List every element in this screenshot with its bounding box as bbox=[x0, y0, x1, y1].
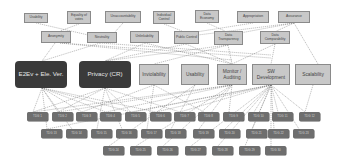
task-node-tdg-12: TDG 12 bbox=[299, 112, 320, 121]
task-node-tdg-18: TDG 18 bbox=[165, 129, 186, 138]
task-node-tdg-29: TDG 29 bbox=[239, 146, 260, 155]
node-label: TDG 7 bbox=[180, 115, 189, 118]
node-label: TDG 6 bbox=[156, 115, 165, 118]
requirement-node-appropriation: Appropriation bbox=[237, 11, 269, 23]
node-label: TDG 15 bbox=[96, 132, 107, 135]
task-node-tdg-9: TDG 9 bbox=[223, 112, 244, 121]
task-node-tdg-30: TDG 30 bbox=[265, 146, 286, 155]
task-node-tdg-4: TDG 4 bbox=[100, 112, 121, 121]
node-label: TDG 4 bbox=[106, 115, 115, 118]
node-label: TDG 26 bbox=[162, 149, 173, 152]
requirement-node-assurance: Assurance bbox=[278, 11, 310, 23]
node-label: Monitor / Auditing bbox=[218, 69, 246, 79]
task-node-tdg-20: TDG 20 bbox=[219, 129, 240, 138]
task-node-tdg-26: TDG 26 bbox=[157, 146, 178, 155]
node-label: TDG 9 bbox=[229, 115, 238, 118]
node-label: Unaccountability bbox=[111, 15, 136, 19]
requirement-node-usability: Usability bbox=[181, 64, 209, 85]
node-label: TDG 24 bbox=[108, 149, 119, 152]
node-label: TDG 12 bbox=[304, 115, 315, 118]
task-node-tdg-22: TDG 22 bbox=[268, 129, 289, 138]
task-node-tdg-25: TDG 25 bbox=[130, 146, 151, 155]
node-label: TDG 14 bbox=[71, 132, 82, 135]
node-label: Unlinkability bbox=[135, 35, 153, 39]
requirement-node-data-comparability: Data Comparability bbox=[260, 31, 290, 44]
task-node-tdg-23: TDG 23 bbox=[293, 129, 314, 138]
task-node-tdg-11: TDG 11 bbox=[272, 112, 293, 121]
requirement-node-inviolability: Inviolability bbox=[139, 64, 169, 85]
node-label: TDG 25 bbox=[135, 149, 146, 152]
node-label: TDG 13 bbox=[46, 132, 57, 135]
goal-node-e2ev-ele-ver: E2Ev + Ele. Ver. bbox=[15, 61, 67, 88]
task-node-tdg-16: TDG 16 bbox=[116, 129, 137, 138]
task-node-tdg-28: TDG 28 bbox=[212, 146, 233, 155]
requirement-node-neutrality: Neutrality bbox=[87, 32, 117, 43]
node-label: Public Control bbox=[176, 36, 197, 40]
requirement-node-public-control: Public Control bbox=[174, 31, 199, 44]
node-label: TDG 10 bbox=[253, 115, 264, 118]
requirement-node-usability: Usability bbox=[24, 13, 48, 23]
requirement-node-monitor-auditing: Monitor / Auditing bbox=[217, 64, 247, 85]
node-label: Data Transparency bbox=[215, 34, 242, 41]
node-label: Equality of votes bbox=[68, 14, 90, 21]
node-label: TDG 22 bbox=[273, 132, 284, 135]
node-label: Individual Control bbox=[154, 14, 174, 21]
requirement-node-data-economy: Data Economy bbox=[195, 10, 219, 23]
requirement-node-data-transparency: Data Transparency bbox=[214, 31, 243, 45]
task-node-tdg-19: TDG 19 bbox=[193, 129, 214, 138]
task-node-tdg-6: TDG 6 bbox=[150, 112, 171, 121]
node-label: TDG 3 bbox=[82, 115, 91, 118]
node-label: TDG 19 bbox=[198, 132, 209, 135]
node-label: TDG 5 bbox=[131, 115, 140, 118]
requirement-node-anonymity: Anonymity bbox=[41, 31, 71, 43]
task-node-tdg-21: TDG 21 bbox=[246, 129, 267, 138]
node-label: Assurance bbox=[286, 15, 302, 19]
node-label: TDG 18 bbox=[170, 132, 181, 135]
node-label: SW Development bbox=[253, 69, 289, 79]
node-label: E2Ev + Ele. Ver. bbox=[19, 71, 64, 78]
node-label: Inviolability bbox=[142, 72, 165, 77]
goal-node-privacy-cr: Privacy (CR) bbox=[79, 61, 131, 88]
node-label: TDG 1 bbox=[33, 115, 42, 118]
node-label: Usability bbox=[30, 16, 43, 20]
requirement-node-scalability: Scalability bbox=[295, 64, 331, 85]
node-label: TDG 29 bbox=[244, 149, 255, 152]
task-node-tdg-17: TDG 17 bbox=[141, 129, 162, 138]
task-node-tdg-8: TDG 8 bbox=[198, 112, 219, 121]
node-label: TDG 16 bbox=[121, 132, 132, 135]
task-node-tdg-14: TDG 14 bbox=[66, 129, 87, 138]
node-label: TDG 27 bbox=[190, 149, 201, 152]
node-label: TDG 2 bbox=[58, 115, 67, 118]
node-label: Data Comparability bbox=[261, 34, 289, 41]
node-label: TDG 30 bbox=[270, 149, 281, 152]
task-node-tdg-3: TDG 3 bbox=[76, 112, 97, 121]
node-label: TDG 23 bbox=[298, 132, 309, 135]
node-label: TDG 28 bbox=[217, 149, 228, 152]
node-label: Privacy (CR) bbox=[87, 71, 122, 78]
node-label: TDG 20 bbox=[224, 132, 235, 135]
task-node-tdg-1: TDG 1 bbox=[27, 112, 48, 121]
task-node-tdg-15: TDG 15 bbox=[91, 129, 112, 138]
node-label: Neutrality bbox=[95, 36, 109, 40]
requirement-node-individual-control: Individual Control bbox=[153, 11, 175, 24]
requirement-node-unaccountability: Unaccountability bbox=[105, 11, 141, 23]
requirement-node-sw-development: SW Development bbox=[252, 64, 290, 85]
node-label: Appropriation bbox=[243, 15, 263, 19]
task-node-tdg-7: TDG 7 bbox=[174, 112, 195, 121]
node-label: TDG 8 bbox=[204, 115, 213, 118]
node-label: Data Economy bbox=[196, 13, 218, 20]
task-node-tdg-5: TDG 5 bbox=[125, 112, 146, 121]
task-node-tdg-24: TDG 24 bbox=[103, 146, 124, 155]
node-label: TDG 21 bbox=[251, 132, 262, 135]
node-label: Usability bbox=[186, 72, 204, 77]
requirement-node-equality-of-votes: Equality of votes bbox=[67, 11, 91, 24]
node-label: Scalability bbox=[302, 72, 324, 77]
node-label: TDG 11 bbox=[277, 115, 287, 118]
task-node-tdg-27: TDG 27 bbox=[185, 146, 206, 155]
node-label: TDG 17 bbox=[146, 132, 157, 135]
node-label: Anonymity bbox=[48, 35, 64, 39]
requirement-node-unlinkability: Unlinkability bbox=[130, 31, 159, 43]
task-node-tdg-2: TDG 2 bbox=[52, 112, 73, 121]
task-node-tdg-10: TDG 10 bbox=[248, 112, 269, 121]
task-node-tdg-13: TDG 13 bbox=[41, 129, 62, 138]
